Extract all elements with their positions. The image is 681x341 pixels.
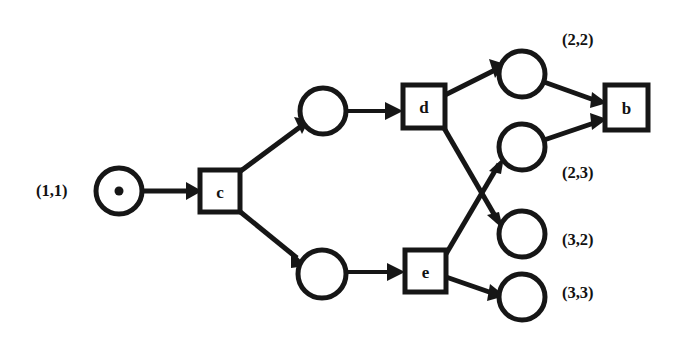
place-circle-3-2[interactable] <box>499 211 545 257</box>
token-dot-start <box>115 187 124 196</box>
place-2-2[interactable] <box>499 51 545 97</box>
place-circle-upper-mid[interactable] <box>300 88 346 134</box>
arc-place-23-to-b <box>544 113 607 140</box>
place-2-3[interactable] <box>499 124 545 170</box>
petri-net-diagram: c d e b (1,1) (2,2) (2,3) (3,2) (3,3) <box>0 0 681 341</box>
arc-line-c-upper <box>238 127 300 173</box>
transition-d[interactable]: d <box>403 85 445 128</box>
marking-label-1-1: (1,1) <box>36 181 68 200</box>
marking-label-2-3: (2,3) <box>562 163 594 182</box>
arc-line-c-lower <box>238 210 297 258</box>
arc-place-22-to-b <box>544 82 607 108</box>
transition-label-e: e <box>422 263 430 282</box>
place-3-3[interactable] <box>499 274 545 320</box>
place-lower-mid[interactable] <box>298 250 346 298</box>
marking-label-2-2: (2,2) <box>562 30 594 49</box>
transition-layer: c d e b <box>200 85 648 292</box>
place-3-2[interactable] <box>499 211 545 257</box>
arc-d-to-place-32 <box>444 128 503 229</box>
marking-label-3-2: (3,2) <box>562 230 594 249</box>
transition-e[interactable]: e <box>405 250 446 292</box>
arrowhead-upper-d <box>385 102 403 120</box>
place-circle-2-2[interactable] <box>499 51 545 97</box>
arc-line-e-33 <box>446 277 495 294</box>
arc-e-to-place-23 <box>446 157 504 254</box>
arc-line-23-b <box>544 122 597 140</box>
transition-b[interactable]: b <box>605 85 648 130</box>
transition-label-b: b <box>622 99 631 118</box>
arc-e-to-place-33 <box>446 277 505 301</box>
arrowhead-lower-e <box>387 263 405 281</box>
place-start[interactable] <box>96 168 142 214</box>
arc-line-22-b <box>544 82 597 101</box>
place-upper-mid[interactable] <box>300 88 346 134</box>
arc-c-to-upper-place <box>238 117 309 173</box>
arc-start-to-c <box>142 182 202 200</box>
arc-c-to-lower-place <box>238 210 306 268</box>
place-circle-3-3[interactable] <box>499 274 545 320</box>
arc-d-to-place-22 <box>445 59 505 95</box>
arc-lower-place-to-e <box>346 263 405 281</box>
transition-c[interactable]: c <box>200 170 240 212</box>
arc-line-d-22 <box>445 69 497 95</box>
petri-net-canvas: c d e b (1,1) (2,2) (2,3) (3,2) (3,3) <box>0 0 681 341</box>
marking-label-3-3: (3,3) <box>562 283 594 302</box>
transition-label-d: d <box>419 98 429 117</box>
place-circle-lower-mid[interactable] <box>298 250 346 298</box>
arc-upper-place-to-d <box>346 102 403 120</box>
transition-label-c: c <box>216 183 224 202</box>
place-circle-2-3[interactable] <box>499 124 545 170</box>
